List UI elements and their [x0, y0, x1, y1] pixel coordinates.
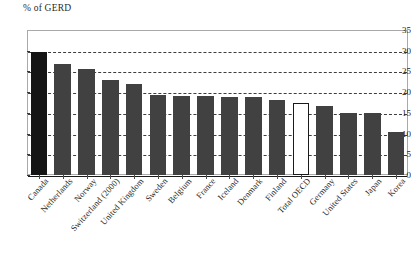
bar-netherlands [54, 64, 71, 175]
bar-sweden [150, 95, 167, 175]
x-axis-labels: CanadaNetherlandsNorwaySwitzerland (2000… [0, 176, 411, 258]
x-label-9: Denmark [235, 176, 264, 207]
x-label-14: Japan [363, 176, 384, 198]
bar-korea [388, 132, 405, 176]
bar-canada [31, 52, 48, 175]
bars-group [27, 30, 408, 175]
bar-denmark [245, 97, 262, 175]
x-label-6: Belgium [165, 176, 193, 205]
bar-norway [78, 69, 95, 175]
x-label-7: France [194, 176, 217, 201]
bar-united-kingdom [126, 84, 143, 175]
bar-japan [364, 113, 381, 175]
bar-iceland [221, 97, 238, 175]
bar-germany [316, 106, 333, 175]
bar-total-oecd [293, 103, 310, 176]
bar-switzerland-2000 [102, 80, 119, 175]
gerd-bar-chart: % of GERD 05101520253035 CanadaNetherlan… [0, 0, 411, 258]
bar-united-states [340, 113, 357, 175]
x-label-15: Korea [386, 176, 408, 199]
bar-finland [269, 100, 286, 175]
bar-belgium [173, 96, 190, 175]
x-label-5: Sweden [143, 176, 169, 203]
y-axis-title: % of GERD [23, 3, 71, 13]
bar-france [197, 96, 214, 175]
